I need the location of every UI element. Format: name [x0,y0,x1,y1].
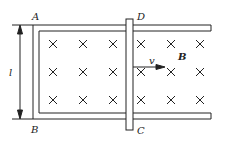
label-velocity: v [149,55,155,66]
arrow-down-icon [18,110,23,119]
bottom-rail [12,113,211,119]
rail-circuit-diagram: A D B C l v B [0,0,225,145]
rail-frame [12,25,211,119]
left-connector [33,25,39,119]
label-b: B [30,124,38,135]
field-cross-icon [109,96,117,104]
label-c: C [137,125,145,136]
field-cross-icon [49,40,57,48]
label-d: D [136,11,145,22]
label-a: A [31,11,39,22]
label-field: B [177,51,186,62]
top-rail [12,25,211,31]
field-cross-icon [167,68,175,76]
field-cross-icon [137,96,145,104]
field-cross-icon [79,96,87,104]
field-cross-icon [196,96,204,104]
length-dimension [18,25,23,119]
sliding-bar-cd [126,19,133,130]
arrow-right-icon [156,65,165,70]
field-cross-icon [109,40,117,48]
field-cross-icon [137,40,145,48]
field-cross-icon [196,40,204,48]
field-cross-icon [79,40,87,48]
field-cross-icon [167,96,175,104]
field-cross-icon [109,68,117,76]
field-cross-icon [167,40,175,48]
field-cross-icon [137,68,145,76]
field-cross-icon [49,68,57,76]
field-cross-icon [79,68,87,76]
label-length: l [9,67,12,78]
arrow-up-icon [18,25,23,34]
field-cross-icon [196,68,204,76]
field-cross-icon [49,96,57,104]
